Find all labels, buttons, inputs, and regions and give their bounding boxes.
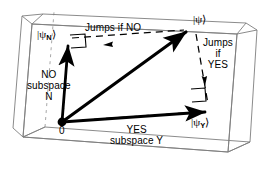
label-origin: 0: [59, 126, 65, 137]
label-no-subspace: NO subspace N: [27, 69, 71, 103]
slab-inner-edge-bottom-right: [23, 127, 45, 137]
label-yes-subspace: YES subspace Y: [110, 124, 163, 146]
label-jumps-if-no: Jumps if NO: [85, 23, 141, 34]
no-subspace-line-3: N: [27, 91, 71, 102]
jumps-if-yes-line-1: Jumps: [203, 37, 233, 48]
psi-y-ket-close: ⟩: [205, 116, 209, 128]
psi-n-ket-close: ⟩: [52, 28, 56, 40]
no-subspace-line-1: NO: [27, 69, 71, 80]
label-jumps-if-yes: Jumps if YES: [203, 37, 233, 71]
psi-y-ket-open: |ψ: [191, 116, 200, 128]
label-state-psi: |ψ⟩: [193, 14, 206, 26]
label-projection-psi-y: |ψY⟩: [191, 117, 210, 130]
right-angle-marker-no: [70, 34, 86, 48]
jumps-if-yes-line-3: YES: [203, 59, 233, 70]
slab-rear-edge-right: [246, 23, 257, 30]
projection-vector-psi-y: [62, 112, 205, 122]
yes-subspace-symbol: Y: [156, 135, 163, 146]
state-vectors: [62, 32, 205, 122]
quantum-subspace-diagram: |ψ⟩ |ψN⟩ |ψY⟩ 0 Jumps if NO Jumps if YES…: [0, 0, 262, 176]
right-angle-marker-yes: [191, 88, 206, 102]
slab-rear-edge-left: [22, 14, 43, 16]
no-subspace-line-2: subspace: [27, 80, 71, 91]
yes-subspace-line-1: YES: [110, 124, 163, 135]
jumps-if-no-arrowhead: [103, 41, 113, 47]
state-vector-psi: [62, 32, 186, 122]
label-projection-psi-n: |ψN⟩: [37, 29, 56, 42]
psi-n-ket-open: |ψ: [37, 28, 46, 40]
jumps-if-yes-line-2: if: [203, 48, 233, 59]
jumps-if-no-text: Jumps if: [85, 22, 123, 33]
yes-subspace-line-2: subspace Y: [110, 135, 163, 146]
jumps-if-no-emphasis: NO: [126, 22, 141, 33]
yes-subspace-word: subspace: [110, 135, 154, 146]
